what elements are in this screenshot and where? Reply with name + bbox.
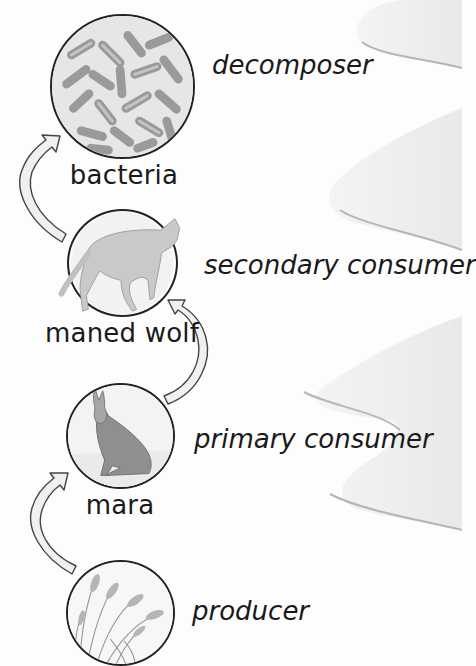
role-label-producer: producer [192,596,309,626]
role-label-primary-consumer: primary consumer [194,424,433,454]
grass-circle [66,560,175,666]
mara-icon [68,385,173,487]
grass-icon [68,562,173,664]
maned-wolf-icon [69,211,176,315]
organism-label-bacteria: bacteria [64,160,184,190]
mara-circle [66,383,175,489]
maned-wolf-circle [67,209,178,317]
organism-label-mara: mara [60,490,180,520]
bacteria-icon [52,16,193,157]
organism-label-maned-wolf: maned wolf [22,318,222,348]
role-label-decomposer: decomposer [212,50,373,80]
role-label-secondary-consumer: secondary consumer [204,250,476,280]
bacteria-circle [50,14,195,159]
